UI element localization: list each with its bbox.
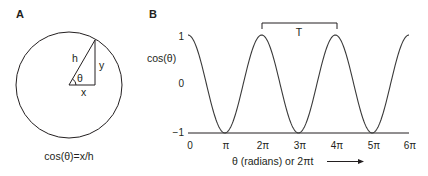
- adjacent-label: x: [81, 86, 87, 98]
- x-axis-label: θ (radians) or 2πt: [232, 155, 313, 167]
- angle-arc: [73, 79, 77, 85]
- panel-b-label: B: [149, 8, 157, 20]
- x-tick-pi: π: [223, 140, 230, 151]
- y-tick-1: 1: [178, 31, 184, 42]
- panel-a-caption: cos(θ)=x/h: [44, 150, 93, 162]
- y-axis-label: cos(θ): [147, 52, 176, 64]
- cosine-curve: [188, 35, 409, 133]
- x-tick-4pi: 4π: [331, 140, 344, 151]
- y-tick-0: 0: [178, 78, 184, 89]
- theta-label: θ: [77, 72, 83, 84]
- figure: A h y θ x cos(θ)=x/h B 1 cos(θ) 0 −1: [0, 0, 428, 176]
- x-tick-6pi: 6π: [404, 140, 417, 151]
- opposite-label: y: [99, 59, 105, 71]
- panel-b: B 1 cos(θ) 0 −1 T 0 π 2π 3π 4π 5π 6π θ (…: [147, 8, 416, 167]
- panel-a-label: A: [16, 8, 24, 20]
- hypotenuse-label: h: [72, 52, 78, 64]
- y-tick-neg1: −1: [173, 127, 185, 138]
- arrow-right-icon: [358, 159, 364, 164]
- period-label: T: [296, 26, 303, 38]
- x-tick-3pi: 3π: [294, 140, 307, 151]
- x-tick-5pi: 5π: [368, 140, 381, 151]
- x-tick-2pi: 2π: [257, 140, 270, 151]
- x-tick-0: 0: [187, 140, 193, 151]
- panel-a: A h y θ x cos(θ)=x/h: [16, 8, 122, 162]
